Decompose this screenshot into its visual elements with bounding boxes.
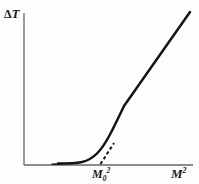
threshold-label-subscript: 0 <box>103 174 107 183</box>
plot-area <box>0 0 199 184</box>
delta-t-curve <box>58 12 190 164</box>
y-axis-label: ΔT <box>4 7 19 20</box>
threshold-tick-label: M02 <box>92 167 110 183</box>
x-axis-label-base: M <box>171 166 183 181</box>
x-axis-label: M2 <box>171 167 187 180</box>
y-axis-label-delta: Δ <box>4 7 12 21</box>
figure-container: ΔT M2 M02 <box>0 0 199 184</box>
y-axis-label-variable: T <box>12 6 20 21</box>
threshold-label-base: M <box>92 167 103 181</box>
x-axis-label-exponent: 2 <box>183 166 187 175</box>
threshold-label-exponent: 2 <box>106 166 110 175</box>
